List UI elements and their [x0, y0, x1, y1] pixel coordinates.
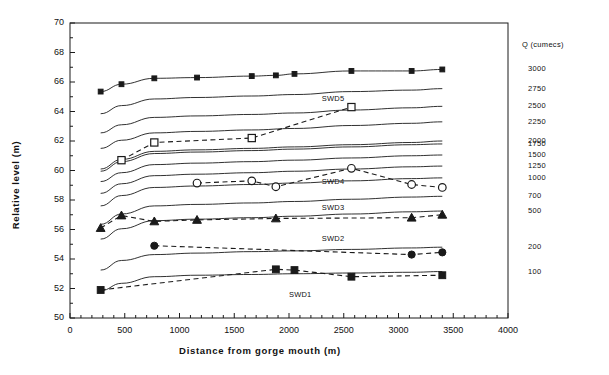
series-label-swd3: SWD3	[322, 203, 344, 212]
series-label-swd1: SWD1	[289, 290, 311, 299]
x-tick-label: 1000	[160, 325, 200, 335]
series-label-swd5: SWD5	[322, 94, 344, 103]
measured-series-swd4	[193, 164, 446, 191]
q-axis-label: 100	[528, 267, 541, 276]
q-axis-label: 1750	[528, 139, 546, 148]
q-axis-label: 700	[528, 191, 541, 200]
discharge-curve	[101, 155, 443, 182]
y-tick-label: 58	[38, 194, 64, 204]
q-axis-label: 200	[528, 242, 541, 251]
y-tick-label: 68	[38, 47, 64, 57]
x-tick-label: 3500	[433, 325, 473, 335]
q-axis-label: 2250	[528, 117, 546, 126]
y-tick-label: 60	[38, 165, 64, 175]
x-tick-label: 500	[105, 325, 145, 335]
x-tick-label: 0	[50, 325, 90, 335]
y-tick-label: 54	[38, 253, 64, 263]
y-tick-label: 70	[38, 17, 64, 27]
discharge-curve	[101, 272, 443, 291]
x-tick-label: 3000	[379, 325, 419, 335]
discharge-curve	[101, 196, 443, 224]
y-tick-label: 56	[38, 224, 64, 234]
q-axis-label: 3000	[528, 64, 546, 73]
x-tick-label: 1500	[214, 325, 254, 335]
y-tick-label: 50	[38, 312, 64, 322]
x-tick-label: 4000	[488, 325, 528, 335]
measured-series-swd2	[151, 242, 446, 258]
chart-figure: Relative level (m) Distance from gorge m…	[0, 0, 609, 375]
plot-area	[0, 0, 609, 375]
q-axis-label: 2750	[528, 84, 546, 93]
discharge-curve	[101, 178, 443, 206]
series-label-swd4: SWD4	[322, 177, 344, 186]
series-label-swd2: SWD2	[322, 234, 344, 243]
y-tick-label: 66	[38, 76, 64, 86]
q-axis-label: 500	[528, 206, 541, 215]
x-tick-label: 2000	[269, 325, 309, 335]
measured-series-layer	[96, 103, 446, 293]
y-tick-label: 64	[38, 106, 64, 116]
q-axis-label: 1500	[528, 150, 546, 159]
measured-series-swd5	[118, 103, 355, 163]
y-tick-label: 52	[38, 283, 64, 293]
discharge-curve	[101, 89, 443, 114]
measured-series-swd1	[97, 266, 445, 293]
q-axis-label: 1000	[528, 173, 546, 182]
q-axis-label: 2500	[528, 101, 546, 110]
y-tick-label: 62	[38, 135, 64, 145]
discharge-curve	[98, 67, 444, 94]
measured-series-swd3	[96, 210, 446, 231]
discharge-curve	[101, 166, 443, 193]
discharge-curve	[101, 247, 443, 270]
q-axis-label: 1250	[528, 161, 546, 170]
x-tick-label: 2500	[324, 325, 364, 335]
